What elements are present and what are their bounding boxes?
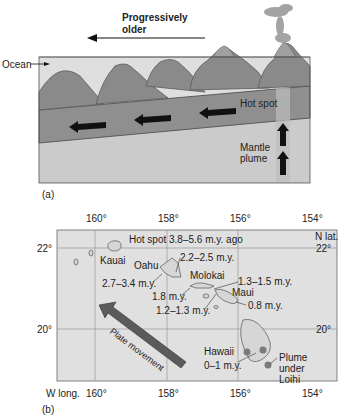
lat-tick-right-20: 20° — [316, 324, 331, 335]
top-lon-tick-160: 160° — [86, 213, 107, 224]
hotspot-dot-1 — [244, 349, 251, 356]
oahu-west-age: 2.7–3.4 m.y. — [102, 278, 156, 289]
molokai-west-age: 1.8 m.y. — [152, 291, 187, 302]
top-lon-tick-154: 154° — [302, 213, 323, 224]
bottom-lon-tick-154: 154° — [302, 388, 323, 399]
bottom-lon-tick-158: 158° — [158, 388, 179, 399]
small-islet — [89, 250, 93, 256]
lon-axis-label: W long. — [46, 388, 80, 399]
panel-b-caption: (b) — [42, 404, 54, 415]
loihi-plume-label-line2: under — [279, 363, 305, 374]
bottom-lon-tick-156: 156° — [230, 388, 251, 399]
loihi-plume-label-line3: Loihi — [279, 374, 300, 385]
maui-east-age: 0.8 m.y. — [248, 300, 283, 311]
hot-spot-age-title: Hot spot 3.8–5.6 m.y. ago — [129, 234, 243, 245]
lat-axis-label: N lat. — [315, 231, 338, 242]
molokai-east-age: 1.3–1.5 m.y. — [238, 276, 292, 287]
top-lon-tick-156: 156° — [230, 213, 251, 224]
loihi-plume-dot — [265, 362, 272, 369]
hawaii-age: 0–1 m.y. — [204, 360, 242, 371]
maui-west-age: 1.2–1.3 m.y. — [156, 305, 210, 316]
hawaii-label: Hawaii — [204, 346, 234, 357]
lat-tick-right-22: 22° — [316, 243, 331, 254]
loihi-plume-label-line1: Plume — [279, 352, 307, 363]
niihau-island — [74, 259, 78, 265]
maui-label: Maui — [232, 287, 254, 298]
kahoolawe-island — [214, 306, 218, 309]
oahu-east-age: 2.2–2.5 m.y. — [180, 252, 234, 263]
bottom-lon-tick-160: 160° — [86, 388, 107, 399]
kauai-island — [108, 241, 121, 251]
lat-tick-left-20: 20° — [37, 324, 52, 335]
oahu-label: Oahu — [134, 260, 158, 271]
lat-tick-left-22: 22° — [37, 243, 52, 254]
kauai-label: Kauai — [100, 255, 126, 266]
hotspot-dot-2 — [260, 347, 267, 354]
top-lon-tick-158: 158° — [158, 213, 179, 224]
lanai-island — [203, 294, 209, 298]
molokai-label: Molokai — [190, 270, 224, 281]
